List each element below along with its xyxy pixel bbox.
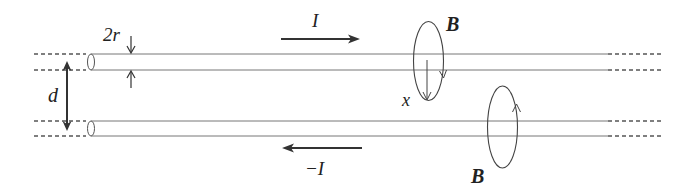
radius-indicator: [127, 36, 135, 88]
label-radius: 2r: [103, 25, 120, 44]
label-current-top: I: [312, 11, 318, 30]
field-loop-bottom: [488, 86, 521, 168]
top-wire-end-cap: [88, 54, 95, 70]
bottom-wire: [34, 121, 662, 136]
field-line-ellipse: [488, 86, 518, 168]
label-separation: d: [48, 85, 58, 105]
field-loop-top: [414, 22, 447, 101]
field-line-ellipse: [414, 22, 444, 101]
label-field-top: B: [446, 14, 459, 34]
label-current-bottom: −I: [305, 159, 324, 178]
current-arrow-bottom: [282, 144, 362, 153]
bottom-wire-end-cap: [88, 121, 95, 136]
top-wire: [34, 54, 662, 70]
label-field-bottom: B: [471, 166, 484, 186]
label-distance-x: x: [402, 91, 410, 109]
diagram-canvas: 2r d I −I B B x: [0, 0, 685, 191]
current-arrow-top: [281, 35, 360, 44]
